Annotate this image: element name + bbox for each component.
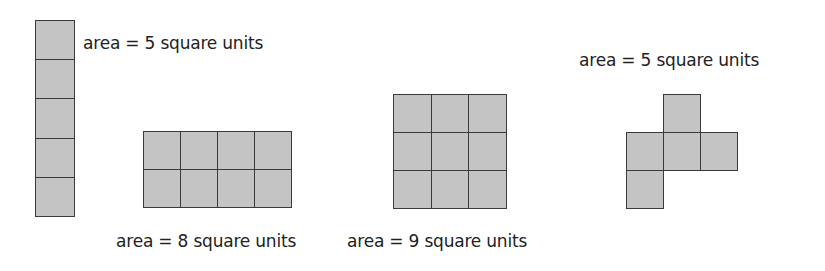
unit-square <box>431 170 470 209</box>
unit-square <box>393 170 432 209</box>
label-square-3x3: area = 9 square units <box>347 231 527 251</box>
unit-square <box>143 131 181 170</box>
unit-square <box>663 94 701 133</box>
unit-square <box>468 170 507 209</box>
label-rect-2x4: area = 8 square units <box>116 231 296 251</box>
unit-square <box>35 20 75 60</box>
unit-square <box>393 132 432 171</box>
unit-square <box>393 94 432 133</box>
label-column: area = 5 square units <box>83 33 263 53</box>
unit-square <box>468 132 507 171</box>
unit-square <box>663 132 701 171</box>
unit-square <box>626 170 664 209</box>
unit-square <box>143 169 181 208</box>
unit-square <box>217 131 255 170</box>
unit-square <box>700 132 738 171</box>
unit-square <box>35 59 75 99</box>
unit-square <box>180 169 218 208</box>
unit-square <box>180 131 218 170</box>
unit-square <box>35 98 75 138</box>
unit-square <box>35 138 75 178</box>
label-pentomino: area = 5 square units <box>579 50 759 70</box>
unit-square <box>254 131 292 170</box>
unit-square <box>431 132 470 171</box>
unit-square <box>626 132 664 171</box>
unit-square <box>431 94 470 133</box>
unit-square <box>254 169 292 208</box>
unit-square <box>35 177 75 217</box>
unit-square <box>217 169 255 208</box>
unit-square <box>468 94 507 133</box>
